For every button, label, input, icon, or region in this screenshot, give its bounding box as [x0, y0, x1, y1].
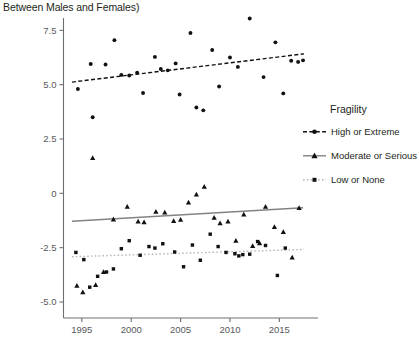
data-point	[112, 267, 115, 270]
y-axis-tick-label: 0	[51, 188, 56, 199]
data-point	[209, 232, 212, 235]
data-point	[289, 59, 293, 63]
data-point	[182, 265, 185, 268]
data-point	[210, 48, 214, 52]
data-point	[301, 58, 305, 62]
data-point	[233, 252, 236, 255]
data-point	[225, 219, 230, 224]
data-point	[141, 219, 146, 224]
data-point	[189, 31, 193, 35]
y-axis-tick-label: 7.5	[43, 25, 56, 36]
data-point	[191, 243, 194, 246]
data-point	[91, 115, 95, 119]
x-axis-tick-label: 2010	[219, 324, 240, 335]
data-point	[281, 91, 285, 95]
x-axis-tick-label: 2000	[121, 324, 142, 335]
data-point	[88, 285, 91, 288]
data-point	[178, 217, 183, 222]
data-point	[199, 259, 202, 262]
data-point	[186, 200, 191, 205]
y-axis-tick-labels: 7.55.02.50-2.5-5.0	[40, 25, 56, 308]
data-point	[202, 184, 207, 189]
legend-title: Fragility	[330, 103, 368, 115]
data-point	[159, 67, 163, 71]
data-point	[119, 73, 123, 77]
x-axis-tick-label: 2005	[170, 324, 191, 335]
data-point	[194, 106, 198, 110]
series-low-or-none	[72, 232, 304, 288]
data-point	[296, 60, 300, 64]
data-point	[166, 68, 170, 72]
data-point	[153, 246, 156, 249]
chart-root: Between Males and Females) 7.55.02.50-2.…	[0, 0, 419, 352]
legend-item-moderate-or-serious[interactable]: Moderate or Serious	[303, 150, 417, 161]
data-point	[104, 63, 108, 67]
data-point	[237, 254, 240, 257]
data-point	[171, 218, 176, 223]
data-point	[105, 270, 108, 273]
data-point	[248, 252, 251, 255]
data-point	[153, 55, 157, 59]
trendline	[72, 249, 304, 256]
y-axis-tick-label: -5.0	[40, 296, 56, 307]
data-point	[89, 62, 93, 66]
data-point	[173, 250, 176, 253]
data-point	[217, 221, 222, 226]
data-point	[90, 155, 95, 160]
data-point	[82, 258, 85, 261]
data-point	[228, 56, 232, 60]
x-axis-tick-labels: 19952000200520102015	[71, 324, 290, 335]
legend-item-label: Low or None	[331, 174, 385, 185]
data-point	[194, 192, 199, 197]
data-point	[216, 245, 219, 248]
legend-marker	[312, 130, 317, 135]
legend-item-high-or-extreme[interactable]: High or Extreme	[303, 126, 400, 137]
data-point	[264, 244, 267, 247]
data-point	[241, 212, 246, 217]
data-point	[153, 209, 158, 214]
trendline	[72, 54, 304, 82]
legend-item-label: Moderate or Serious	[331, 150, 417, 161]
y-axis-tick-label: 2.5	[43, 133, 56, 144]
data-point	[135, 71, 139, 75]
data-point	[224, 251, 227, 254]
data-point	[236, 65, 240, 69]
data-point	[256, 240, 259, 243]
series-high-or-extreme	[72, 16, 305, 119]
data-series-layer	[72, 16, 305, 294]
legend-item-low-or-none[interactable]: Low or None	[303, 174, 385, 185]
data-point	[248, 16, 252, 20]
data-point	[128, 239, 131, 242]
data-point	[174, 61, 178, 65]
data-point	[272, 224, 277, 229]
data-point	[120, 247, 123, 250]
data-point	[112, 38, 116, 42]
data-point	[262, 75, 266, 79]
data-point	[212, 215, 217, 220]
chart-legend: FragilityHigh or ExtremeModerate or Seri…	[303, 103, 417, 185]
data-point	[74, 251, 77, 254]
data-point	[141, 91, 145, 95]
data-point	[74, 283, 79, 288]
data-point	[93, 282, 98, 287]
scatter-plot: 7.55.02.50-2.5-5.0 19952000200520102015 …	[0, 0, 419, 352]
data-point	[290, 255, 295, 260]
data-point	[241, 253, 244, 256]
y-axis-tick-label: -2.5	[40, 242, 56, 253]
data-point	[178, 93, 182, 97]
legend-marker	[313, 178, 317, 182]
data-point	[162, 210, 167, 215]
data-point	[127, 74, 131, 78]
data-point	[161, 242, 164, 245]
y-axis-tick-label: 5.0	[43, 79, 56, 90]
data-point	[136, 219, 141, 224]
data-point	[273, 40, 277, 44]
data-point	[96, 275, 99, 278]
data-point	[281, 229, 286, 234]
data-point	[80, 289, 85, 294]
trendline	[72, 208, 303, 221]
x-axis-tick-label: 2015	[269, 324, 290, 335]
data-point	[276, 274, 279, 277]
data-point	[284, 246, 287, 249]
data-point	[233, 238, 238, 243]
